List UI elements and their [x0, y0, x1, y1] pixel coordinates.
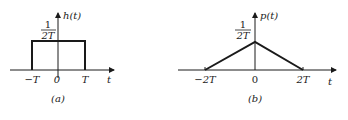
tick-T: T: [82, 74, 90, 85]
height-den: 2T: [235, 30, 250, 41]
xlabel-t: t: [107, 74, 112, 85]
triangle-pulse: [205, 42, 303, 70]
panel-a: h(t) 1 2T −T 0 T t (a): [10, 10, 114, 104]
height-den: 2T: [40, 30, 55, 41]
height-num: 1: [240, 19, 246, 30]
tick-neg-T: −T: [24, 74, 40, 85]
panel-b: p(t) 1 2T −2T 0 2T t (b): [178, 10, 336, 104]
xlabel-t: t: [328, 76, 333, 87]
tick-neg-2T: −2T: [194, 74, 217, 85]
ylabel-h: h(t): [63, 10, 81, 21]
caption-b: (b): [248, 93, 262, 104]
tick-2T: 2T: [295, 74, 310, 85]
tick-zero: 0: [54, 74, 61, 85]
height-num: 1: [45, 19, 51, 30]
caption-a: (a): [51, 93, 65, 104]
tick-zero: 0: [252, 74, 258, 85]
figure: h(t) 1 2T −T 0 T t (a) p(t) 1 2T −2T 0 2…: [0, 0, 348, 120]
ylabel-p: p(t): [260, 10, 278, 21]
